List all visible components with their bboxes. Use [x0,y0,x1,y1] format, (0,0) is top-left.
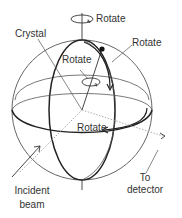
crystal-pointer [38,39,82,110]
label-rotate-inner: Rotate [62,54,91,65]
label-incident-line2: beam [9,199,55,210]
inner-rotate-pointer [80,70,88,79]
goniometer-diagram: Rotate Crystal Rotate Rotate Rotate Inci… [0,0,182,218]
label-to-detector: To detector [122,172,168,195]
detector-pointer [146,150,158,173]
equator-back [12,94,152,111]
label-incident-beam: Incident beam [9,185,55,210]
label-detector-line1: To [122,172,168,183]
label-crystal: Crystal [15,28,46,39]
right-rotate-pointer [112,45,132,62]
label-incident-line1: Incident [9,185,55,196]
label-detector-line2: detector [122,184,168,195]
incident-beam-line [20,110,82,172]
incident-arrow [12,146,40,177]
label-rotate-top: Rotate [96,13,125,24]
label-rotate-equator: Rotate [77,122,106,133]
label-rotate-right: Rotate [132,37,161,48]
upper-latitude-circle [15,75,149,100]
crystal-dot [99,46,104,51]
